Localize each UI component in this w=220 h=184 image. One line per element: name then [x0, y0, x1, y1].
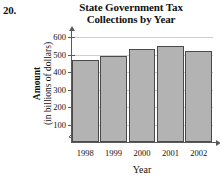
y-axis-title: Amount (in billions of dollars): [26, 36, 48, 132]
y-axis-tick-label: 400: [53, 68, 66, 77]
x-axis-line: [71, 142, 217, 143]
bar-2001: [157, 46, 184, 142]
x-axis-tick-label: 1999: [100, 149, 127, 158]
chart-title: State Government Tax Collections by Year: [48, 2, 214, 25]
y-axis-tick-label: 600: [53, 33, 66, 42]
plot-area: 10020030040050060019981999200020012002: [71, 34, 213, 143]
x-axis-tick-label: 2001: [157, 149, 184, 158]
y-axis-arrow-icon: [69, 26, 75, 31]
y-axis-tick: [68, 55, 75, 56]
figure-container: 20. State Government Tax Collections by …: [0, 0, 220, 184]
bar-2002: [185, 51, 212, 142]
x-axis-title: Year: [71, 164, 213, 175]
x-axis-tick-label: 2002: [185, 149, 212, 158]
x-axis-tick-label: 1998: [72, 149, 99, 158]
y-axis-tick-label: 500: [53, 51, 66, 60]
bar-1999: [100, 56, 127, 142]
y-axis-title-units: (in billions of dollars): [43, 36, 54, 132]
y-axis-title-main: Amount: [32, 36, 43, 132]
chart-title-line-1: State Government Tax: [48, 2, 214, 14]
y-axis-tick-label: 200: [53, 103, 66, 112]
gridline: [71, 37, 213, 38]
x-axis-arrow-icon: [216, 140, 220, 146]
chart-title-line-2: Collections by Year: [48, 14, 214, 26]
problem-number: 20.: [3, 4, 16, 16]
y-axis-tick: [68, 37, 75, 38]
bar-1998: [72, 60, 99, 142]
y-axis-tick-label: 300: [53, 86, 66, 95]
y-axis-tick-label: 100: [53, 121, 66, 130]
bar-2000: [129, 49, 156, 142]
x-axis-tick-label: 2000: [129, 149, 156, 158]
